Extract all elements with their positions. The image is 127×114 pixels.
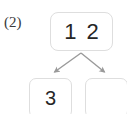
whole-box[interactable]: 1 2 <box>50 12 113 51</box>
part-left-value: 3 <box>45 88 56 108</box>
question-number-label: (2) <box>4 12 38 32</box>
part-right-box[interactable] <box>85 78 127 114</box>
part-left-box[interactable]: 3 <box>29 78 72 114</box>
number-bond-figure: (2) 1 2 3 <box>0 0 127 114</box>
whole-value: 1 2 <box>62 21 101 43</box>
arrow-to-left-part <box>55 53 82 72</box>
arrow-to-right-part <box>81 53 105 72</box>
